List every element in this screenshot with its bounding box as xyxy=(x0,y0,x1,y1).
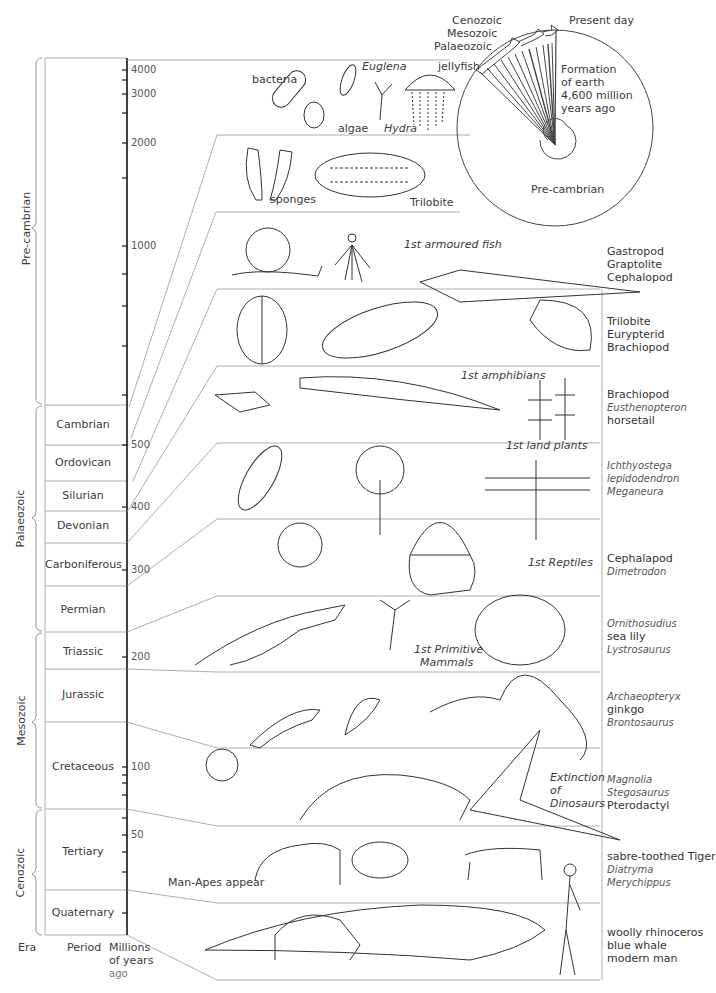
column-header-mya-1: Millions xyxy=(109,941,150,954)
tick-2000: 2000 xyxy=(131,137,156,148)
species-name: Stegosaurus xyxy=(607,786,669,799)
label-extinction-2: of xyxy=(550,784,561,797)
tick-500: 500 xyxy=(131,439,150,450)
species-name: Dimetrodon xyxy=(607,565,673,578)
species-list-9: sabre-toothed Tiger Diatryma Merychippus xyxy=(607,850,716,889)
species-name: Cephalapod xyxy=(607,552,673,565)
species-list-2: Trilobite Eurypterid Brachiopod xyxy=(607,315,669,354)
tick-1000: 1000 xyxy=(131,240,156,251)
label-extinction-3: Dinosaurs xyxy=(550,797,605,810)
clock-label-formation-1: Formation xyxy=(561,63,617,76)
column-header-period: Period xyxy=(67,941,101,954)
species-name: sea lily xyxy=(607,630,677,643)
clock-label-cenozoic: Cenozoic xyxy=(452,14,502,27)
species-name: Lystrosaurus xyxy=(607,643,677,656)
tick-100: 100 xyxy=(131,761,150,772)
species-name: sabre-toothed Tiger xyxy=(607,850,716,863)
clock-label-formation-4: years ago xyxy=(561,102,615,115)
label-jellyfish: jellyfish xyxy=(438,60,480,73)
label-primitive-mammals-1: 1st Primitive xyxy=(414,643,483,656)
period-carboniferous: Carboniferous xyxy=(45,558,121,571)
species-name: Trilobite xyxy=(607,315,669,328)
species-name: Brontosaurus xyxy=(607,716,681,729)
species-name: Gastropod xyxy=(607,245,673,258)
tick-400: 400 xyxy=(131,501,150,512)
column-header-mya-2: of years xyxy=(109,954,153,967)
label-trilobite: Trilobite xyxy=(410,196,454,209)
tick-3000: 3000 xyxy=(131,88,156,99)
species-list-1: Gastropod Graptolite Cephalopod xyxy=(607,245,673,284)
period-silurian: Silurian xyxy=(45,489,121,502)
label-land-plants: 1st land plants xyxy=(506,439,588,452)
label-extinction-1: Extinction xyxy=(550,771,605,784)
era-label-precambrian: Pre-cambrian xyxy=(20,192,33,265)
period-quaternary: Quaternary xyxy=(45,906,121,919)
era-label-mesozoic: Mesozoic xyxy=(15,695,28,745)
column-header-era: Era xyxy=(18,941,36,954)
period-cambrian: Cambrian xyxy=(45,418,121,431)
label-reptiles: 1st Reptiles xyxy=(528,556,593,569)
species-name: Cephalopod xyxy=(607,271,673,284)
label-armoured-fish: 1st armoured fish xyxy=(404,238,502,251)
species-list-8: Magnolia Stegosaurus Pterodactyl xyxy=(607,773,669,812)
species-name: Graptolite xyxy=(607,258,673,271)
clock-label-formation-2: of earth xyxy=(561,76,604,89)
tick-50: 50 xyxy=(131,829,144,840)
label-man-apes: Man-Apes appear xyxy=(168,876,264,889)
period-cretaceous: Cretaceous xyxy=(45,760,121,773)
species-list-4: Ichthyostega lepidodendron Meganeura xyxy=(607,459,679,498)
column-header-mya-3: ago xyxy=(109,967,128,980)
species-name: Magnolia xyxy=(607,773,669,786)
species-list-5: Cephalapod Dimetrodon xyxy=(607,552,673,578)
period-ordovican: Ordovican xyxy=(45,456,121,469)
period-jurassic: Jurassic xyxy=(45,688,121,701)
tick-4000: 4000 xyxy=(131,64,156,75)
species-name: Brachiopod xyxy=(607,341,669,354)
era-label-cenozoic: Cenozoic xyxy=(14,848,27,898)
species-name: Diatryma xyxy=(607,863,716,876)
period-triassic: Triassic xyxy=(45,645,121,658)
species-name: Archaeopteryx xyxy=(607,690,681,703)
species-name: woolly rhinoceros xyxy=(607,926,703,939)
period-permian: Permian xyxy=(45,603,121,616)
tick-300: 300 xyxy=(131,564,150,575)
species-name: modern man xyxy=(607,952,703,965)
species-name: Eusthenopteron xyxy=(607,401,687,414)
label-primitive-mammals-2: Mammals xyxy=(420,656,473,669)
species-name: Ichthyostega xyxy=(607,459,679,472)
species-name: ginkgo xyxy=(607,703,681,716)
tick-200: 200 xyxy=(131,651,150,662)
label-algae: algae xyxy=(338,122,368,135)
species-name: Ornithosudius xyxy=(607,617,677,630)
species-list-7: Archaeopteryx ginkgo Brontosaurus xyxy=(607,690,681,729)
label-amphibians: 1st amphibians xyxy=(461,369,546,382)
species-name: Pterodactyl xyxy=(607,799,669,812)
period-devonian: Devonian xyxy=(45,519,121,532)
species-name: Meganeura xyxy=(607,485,679,498)
clock-label-mesozoic: Mesozoic xyxy=(447,27,497,40)
species-name: Brachiopod xyxy=(607,388,687,401)
clock-label-present-day: Present day xyxy=(569,14,634,27)
label-euglena: Euglena xyxy=(362,60,406,73)
species-list-6: Ornithosudius sea lily Lystrosaurus xyxy=(607,617,677,656)
species-name: Eurypterid xyxy=(607,328,669,341)
label-hydra: Hydra xyxy=(384,122,417,135)
label-sponges: sponges xyxy=(270,193,316,206)
label-bacteria: bacteria xyxy=(252,73,297,86)
species-list-10: woolly rhinoceros blue whale modern man xyxy=(607,926,703,965)
species-list-3: Brachiopod Eusthenopteron horsetail xyxy=(607,388,687,427)
species-name: lepidodendron xyxy=(607,472,679,485)
clock-label-formation-3: 4,600 million xyxy=(561,89,633,102)
species-name: blue whale xyxy=(607,939,703,952)
clock-label-precambrian: Pre-cambrian xyxy=(531,183,604,196)
species-name: Merychippus xyxy=(607,876,716,889)
era-label-palaeozoic: Palaeozoic xyxy=(14,490,27,548)
clock-label-palaeozoic: Palaeozoic xyxy=(434,40,492,53)
species-name: horsetail xyxy=(607,414,687,427)
period-tertiary: Tertiary xyxy=(45,845,121,858)
